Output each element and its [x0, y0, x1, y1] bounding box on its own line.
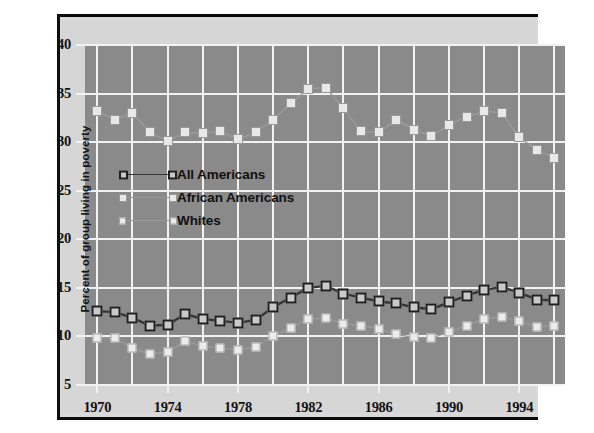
data-point	[145, 127, 155, 137]
plot-area: 5101520253035401970197419781982198619901…	[85, 45, 565, 385]
legend-marker	[170, 217, 177, 224]
data-point	[128, 344, 137, 353]
gridline-horizontal	[85, 93, 565, 95]
data-point	[550, 321, 559, 330]
data-point	[268, 115, 278, 125]
y-axis-tick-label: 15	[31, 279, 71, 296]
data-point	[145, 320, 156, 331]
y-axis-tick-label: 5	[31, 376, 71, 393]
legend-label: African Americans	[177, 190, 294, 205]
data-point	[233, 134, 243, 144]
data-point	[321, 313, 330, 322]
data-point	[408, 302, 419, 313]
data-point	[180, 309, 191, 320]
data-point	[250, 314, 261, 325]
legend-marker	[119, 194, 127, 202]
data-point	[233, 346, 242, 355]
data-point	[532, 145, 542, 155]
data-point	[127, 312, 138, 323]
gridline-vertical	[518, 45, 520, 385]
data-point	[303, 84, 313, 94]
x-axis-tick-label: 1990	[419, 399, 479, 416]
legend-swatch-all-americans	[119, 168, 177, 182]
legend-marker	[119, 217, 126, 224]
x-axis-tick-label: 1994	[489, 399, 549, 416]
data-point	[304, 314, 313, 323]
data-point	[286, 98, 296, 108]
data-point	[549, 295, 560, 306]
data-point	[92, 306, 103, 317]
x-axis-tick-label: 1978	[208, 399, 268, 416]
data-point	[462, 321, 471, 330]
data-point	[356, 292, 367, 303]
data-point	[163, 347, 172, 356]
legend-swatch-whites	[119, 214, 177, 228]
legend-swatch-african-americans	[119, 191, 177, 205]
gridline-vertical	[342, 45, 344, 385]
data-point	[427, 334, 436, 343]
x-axis-tick-label: 1974	[138, 399, 198, 416]
data-point	[198, 128, 208, 138]
data-point	[444, 120, 454, 130]
legend-item[interactable]: Whites	[119, 209, 329, 232]
data-point	[374, 324, 383, 333]
gridline-vertical	[378, 45, 380, 385]
data-point	[163, 136, 173, 146]
y-axis-tick-label: 20	[31, 230, 71, 247]
figure: 5101520253035401970197419781982198619901…	[0, 0, 594, 433]
data-point	[127, 108, 137, 118]
y-axis-tick-label: 35	[31, 85, 71, 102]
data-point	[479, 106, 489, 116]
chart-legend: All Americans African Americans Whites	[119, 163, 329, 232]
data-point	[162, 319, 173, 330]
data-point	[93, 334, 102, 343]
legend-item[interactable]: African Americans	[119, 186, 329, 209]
data-point	[409, 333, 418, 342]
data-point	[251, 343, 260, 352]
x-axis-tick	[167, 385, 169, 393]
data-point	[181, 337, 190, 346]
data-point	[321, 83, 331, 93]
data-point	[357, 321, 366, 330]
data-point	[338, 103, 348, 113]
data-point	[109, 307, 120, 318]
data-point	[392, 330, 401, 339]
data-point	[338, 288, 349, 299]
y-axis-tick-label: 40	[31, 36, 71, 53]
gridline-horizontal	[85, 44, 565, 46]
gridline-horizontal	[85, 238, 565, 240]
legend-line	[125, 220, 171, 221]
data-point	[110, 115, 120, 125]
legend-marker	[119, 170, 128, 179]
legend-marker	[168, 170, 177, 179]
data-point	[479, 284, 490, 295]
data-point	[251, 127, 261, 137]
y-axis-title: Percent of group living in poverty	[79, 49, 91, 389]
gridline-vertical	[483, 45, 485, 385]
data-point	[374, 127, 384, 137]
legend-item[interactable]: All Americans	[119, 163, 329, 186]
data-point	[462, 112, 472, 122]
data-point	[497, 108, 507, 118]
data-point	[444, 327, 453, 336]
data-point	[320, 280, 331, 291]
y-axis-tick-label: 30	[31, 133, 71, 150]
data-point	[92, 106, 102, 116]
x-axis-tick	[237, 385, 239, 393]
data-point	[269, 332, 278, 341]
data-point	[461, 290, 472, 301]
gridline-vertical	[553, 45, 555, 385]
data-point	[216, 344, 225, 353]
x-axis-tick	[518, 385, 520, 393]
gridline-horizontal	[85, 335, 565, 337]
data-point	[356, 126, 366, 136]
legend-line	[125, 197, 171, 198]
data-point	[303, 282, 314, 293]
data-point	[514, 287, 525, 298]
legend-marker	[169, 194, 177, 202]
data-point	[497, 313, 506, 322]
y-axis-tick	[76, 44, 85, 46]
data-point	[426, 131, 436, 141]
legend-label: Whites	[177, 213, 221, 228]
data-point	[198, 342, 207, 351]
